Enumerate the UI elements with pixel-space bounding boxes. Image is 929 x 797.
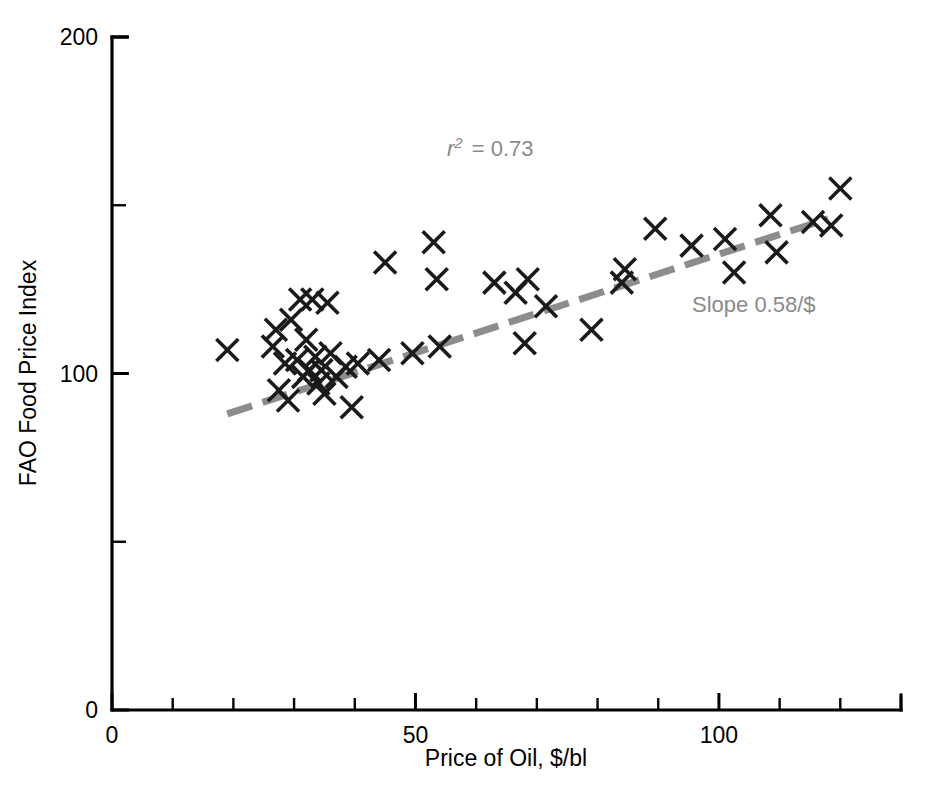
x-tick-label: 100 xyxy=(700,722,738,748)
y-axis-ticks xyxy=(112,37,129,710)
data-point xyxy=(280,309,302,331)
data-point xyxy=(216,339,238,361)
data-point xyxy=(681,235,703,257)
data-point xyxy=(580,319,602,341)
scatter-plot: 050100 0100200 r2 = 0.73 Slope 0.58/$ Pr… xyxy=(0,0,929,797)
data-point xyxy=(277,389,299,411)
data-point xyxy=(426,268,448,290)
y-tick-label: 0 xyxy=(85,697,98,723)
y-tick-label: 100 xyxy=(60,361,98,387)
data-point xyxy=(644,218,666,240)
data-point xyxy=(289,288,311,310)
x-axis-ticks xyxy=(112,693,901,710)
slope-annotation: Slope 0.58/$ xyxy=(692,292,816,317)
r-squared-exponent: 2 xyxy=(453,134,463,151)
data-point xyxy=(514,332,536,354)
x-axis-tick-labels: 050100 xyxy=(106,722,739,748)
data-point xyxy=(341,396,363,418)
r-squared-value: = 0.73 xyxy=(466,136,534,161)
data-point xyxy=(829,177,851,199)
y-tick-label: 200 xyxy=(60,24,98,50)
data-point xyxy=(374,251,396,273)
data-point xyxy=(766,241,788,263)
data-point xyxy=(313,383,335,405)
y-axis-title: FAO Food Price Index xyxy=(15,259,41,486)
data-point xyxy=(760,204,782,226)
data-point xyxy=(423,231,445,253)
r-squared-annotation: r2 = 0.73 xyxy=(447,134,534,161)
data-point xyxy=(301,288,323,310)
y-axis-tick-labels: 0100200 xyxy=(60,24,98,723)
data-point xyxy=(723,262,745,284)
x-tick-label: 0 xyxy=(106,722,119,748)
data-point xyxy=(714,228,736,250)
chart-figure: 050100 0100200 r2 = 0.73 Slope 0.58/$ Pr… xyxy=(0,0,929,797)
data-point xyxy=(517,268,539,290)
data-point xyxy=(316,292,338,314)
data-point xyxy=(429,336,451,358)
data-point xyxy=(265,319,287,341)
data-point xyxy=(483,272,505,294)
x-axis-title: Price of Oil, $/bl xyxy=(425,745,587,771)
data-point xyxy=(820,214,842,236)
data-point xyxy=(614,258,636,280)
